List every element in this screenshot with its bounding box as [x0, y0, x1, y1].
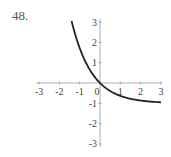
y-tick-label: -2 [89, 118, 97, 129]
y-tick-label: 2 [92, 37, 97, 48]
x-tick-label: 0 [95, 86, 100, 97]
x-tick-label: 3 [158, 86, 163, 97]
x-tick-label: -1 [76, 86, 84, 97]
x-tick-label: -3 [35, 86, 43, 97]
function-curve [72, 21, 161, 102]
y-tick-label: -1 [89, 98, 97, 109]
x-tick-label: 2 [138, 86, 143, 97]
y-tick-label: 1 [92, 57, 97, 68]
y-tick-label: 3 [92, 17, 97, 28]
y-tick-label: -3 [89, 138, 97, 149]
function-plot: -3-2-10123321-1-2-3 [0, 0, 171, 157]
x-tick-label: -2 [55, 86, 63, 97]
